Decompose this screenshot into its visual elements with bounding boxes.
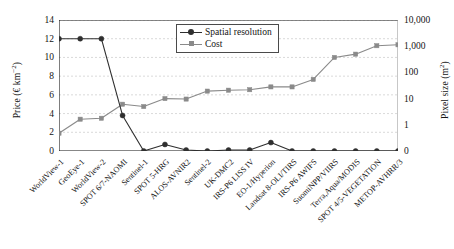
data-point-marker <box>332 149 337 152</box>
y-axis-left-title: Price (€ km−2) <box>10 42 22 138</box>
data-point-marker <box>269 85 273 89</box>
data-point-marker <box>59 36 62 41</box>
chart-legend: Spatial resolution Cost <box>176 24 279 53</box>
data-point-marker <box>78 117 82 121</box>
x-axis-category-label: IRS-P6 AWIFS <box>277 157 319 199</box>
y-axis-right-tick-label: 100 <box>404 67 444 77</box>
data-point-marker <box>142 104 146 108</box>
data-point-marker <box>268 140 273 145</box>
data-point-marker <box>120 102 124 106</box>
x-axis-category-label: IRS-P6 LISS IV <box>211 157 255 201</box>
data-point-marker <box>311 77 315 81</box>
data-point-marker <box>332 55 336 59</box>
data-point-marker <box>396 43 398 47</box>
data-point-marker <box>247 148 252 151</box>
x-axis-category-label: Terra,Aqua/MODIS <box>309 157 362 210</box>
data-point-marker <box>99 116 103 120</box>
data-point-marker <box>396 149 399 152</box>
x-axis-category-label: WorldView-1 <box>28 157 66 195</box>
data-point-marker <box>205 149 210 152</box>
data-point-marker <box>311 149 316 152</box>
legend-marker-square-icon <box>180 39 202 50</box>
chart-container: Price (€ km−2) Pixel size (m2) 024681012… <box>0 0 454 249</box>
x-axis-category-label: Landsat 8-OLI/TIRS <box>244 157 299 212</box>
data-point-marker <box>375 44 379 48</box>
y-axis-right-tick-label: 0 <box>404 146 444 156</box>
x-axis-category-label: SPOT 4/5-VEGETATION <box>316 157 383 224</box>
y-axis-right-tick-label: 1 <box>404 120 444 130</box>
data-point-marker <box>248 88 252 92</box>
legend-item-cost: Cost <box>180 39 272 51</box>
y-axis-right-tick-label: 10,000 <box>404 15 444 25</box>
y-axis-left-tick-label: 6 <box>28 90 54 100</box>
x-axis-category-label: SPOT 6/7-NAOMI <box>78 157 129 208</box>
data-point-marker <box>290 149 295 152</box>
legend-label-cost: Cost <box>205 39 222 51</box>
data-point-marker <box>99 36 104 41</box>
y-axis-right-title-tail: ) <box>440 61 450 64</box>
data-point-marker <box>184 97 188 101</box>
data-point-marker <box>120 113 125 118</box>
x-axis-category-label: UK-DMC2 <box>202 157 235 190</box>
data-point-marker <box>226 88 230 92</box>
data-point-marker <box>205 89 209 93</box>
x-axis-category-label: Sentinel-2 <box>183 157 213 187</box>
data-point-marker <box>374 149 379 152</box>
series-cost <box>59 43 398 136</box>
data-point-marker <box>290 85 294 89</box>
y-axis-left-tick-label: 10 <box>28 52 54 62</box>
y-axis-left-tick-label: 14 <box>28 15 54 25</box>
x-axis-category-label: WorldView-2 <box>70 157 108 195</box>
y-axis-left-tick-label: 8 <box>28 71 54 81</box>
data-point-marker <box>59 131 61 135</box>
legend-marker-circle-icon <box>180 27 202 38</box>
data-point-marker <box>162 142 167 147</box>
x-axis-category-label: SPOT 5-HRG <box>132 157 171 196</box>
x-axis-category-label: Sentinel-1 <box>119 157 149 187</box>
series-spatial-resolution <box>59 36 398 151</box>
data-point-marker <box>78 36 83 41</box>
x-axis-category-label: METOP-AVHRR/3 <box>353 157 405 209</box>
data-point-marker <box>163 97 167 101</box>
data-point-marker <box>226 148 231 151</box>
x-axis-category-label: ALOS-AVNIR2 <box>148 157 192 201</box>
y-axis-left-title-text: Price (€ km <box>12 73 22 118</box>
x-axis-category-label: EO-1/Hyperion <box>235 157 277 199</box>
data-point-marker <box>184 148 189 151</box>
x-axis-category-label: SuomiNPP/VIIRS <box>292 157 341 206</box>
y-axis-left-tick-label: 12 <box>28 34 54 44</box>
legend-item-spatial-resolution: Spatial resolution <box>180 27 272 39</box>
x-axis-category-label: GeoEye-1 <box>57 157 87 187</box>
y-axis-left-title-superscript: −2 <box>10 65 18 73</box>
legend-label-spatial-resolution: Spatial resolution <box>205 27 272 39</box>
y-axis-left-tick-label: 4 <box>28 109 54 119</box>
y-axis-right-tick-label: 1,000 <box>404 41 444 51</box>
data-point-marker <box>354 52 358 56</box>
y-axis-left-tick-label: 2 <box>28 127 54 137</box>
y-axis-right-tick-label: 10 <box>404 94 444 104</box>
y-axis-left-title-tail: ) <box>12 62 22 65</box>
y-axis-left-tick-label: 0 <box>28 146 54 156</box>
data-point-marker <box>353 149 358 152</box>
